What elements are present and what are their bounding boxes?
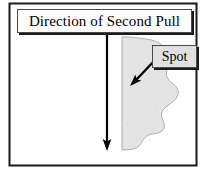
spot-label-box: Spot — [152, 45, 197, 68]
title-label-text: Direction of Second Pull — [29, 14, 180, 29]
spot-label-text: Spot — [162, 50, 188, 64]
title-label-box: Direction of Second Pull — [17, 9, 192, 33]
figure-container: Direction of Second Pull Spot — [0, 0, 210, 171]
